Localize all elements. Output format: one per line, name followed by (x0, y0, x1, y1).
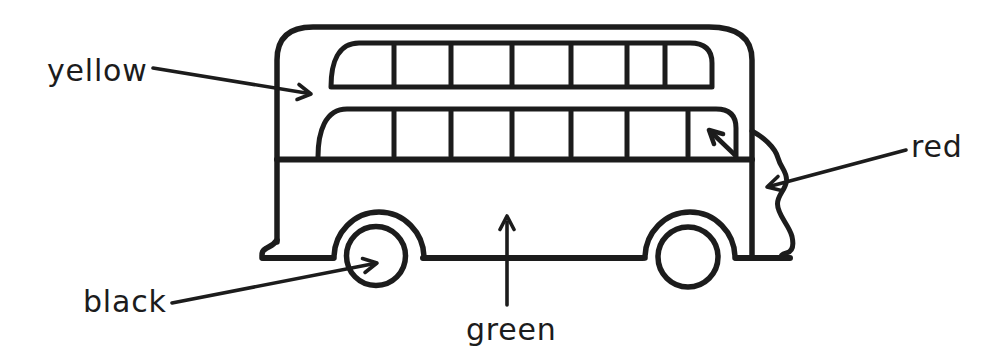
upper-deck-window-dividers (394, 45, 665, 85)
label-green: green (466, 312, 557, 347)
label-red: red (911, 129, 963, 164)
label-yellow: yellow (47, 53, 148, 88)
cab-window-arrow (709, 130, 735, 155)
yellow-arrow (153, 68, 311, 100)
front-wheel (658, 227, 718, 287)
label-black: black (83, 284, 167, 319)
lower-deck-window-dividers (394, 111, 688, 156)
colour-annotations: yellow red black green (47, 53, 963, 347)
black-arrow-shaft (172, 264, 372, 303)
upper-deck-window-strip (331, 43, 712, 87)
bus-colouring-diagram: yellow red black green (0, 0, 999, 360)
red-arrow-shaft (771, 150, 906, 186)
lower-deck-window-strip (318, 109, 736, 157)
bus-front-wavy-edge (752, 131, 793, 258)
bus-drawing (262, 27, 793, 287)
worksheet-page: yellow red black green (0, 0, 999, 360)
rear-wheel (347, 227, 406, 286)
yellow-arrow-shaft (153, 68, 306, 93)
